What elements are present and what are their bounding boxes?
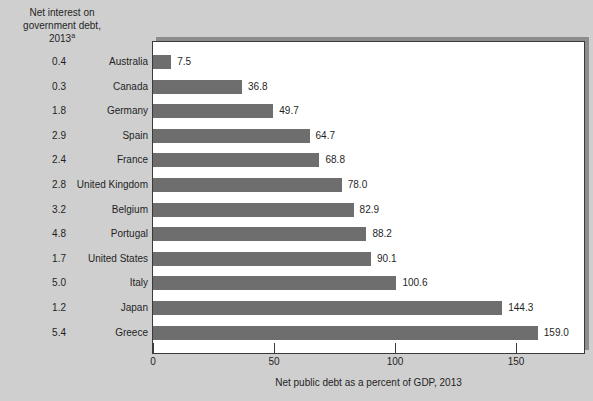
country-label: Germany <box>60 104 148 118</box>
country-label: Spain <box>60 129 148 143</box>
bar <box>153 326 538 340</box>
country-label: Japan <box>60 301 148 315</box>
chart-rows: 0.4Australia7.50.3Canada36.81.8Germany49… <box>0 51 593 346</box>
net-interest-value: 0.4 <box>14 55 66 69</box>
bar <box>153 252 371 266</box>
country-label: Portugal <box>60 227 148 241</box>
bar-value-label: 68.8 <box>325 153 344 167</box>
bar <box>153 276 396 290</box>
net-interest-value: 4.8 <box>14 227 66 241</box>
bar-value-label: 82.9 <box>360 203 379 217</box>
bar-track: 64.7 <box>153 129 593 143</box>
bar-value-label: 78.0 <box>348 178 367 192</box>
x-axis-tick-label: 0 <box>150 356 156 368</box>
net-interest-value: 1.2 <box>14 301 66 315</box>
chart-row: 3.2Belgium82.9 <box>0 199 593 224</box>
country-label: United Kingdom <box>60 178 148 192</box>
chart-row: 1.2Japan144.3 <box>0 297 593 322</box>
bar-value-label: 64.7 <box>316 129 335 143</box>
left-column-header-year: 2013 <box>49 33 71 44</box>
country-label: Belgium <box>60 203 148 217</box>
net-interest-value: 5.0 <box>14 276 66 290</box>
bar-value-label: 144.3 <box>508 301 533 315</box>
bar-track: 100.6 <box>153 276 593 290</box>
chart-row: 2.4France68.8 <box>0 149 593 174</box>
country-label: France <box>60 153 148 167</box>
bar <box>153 129 310 143</box>
bar <box>153 178 342 192</box>
net-interest-value: 2.9 <box>14 129 66 143</box>
chart-row: 0.3Canada36.8 <box>0 76 593 101</box>
bar-value-label: 90.1 <box>377 252 396 266</box>
bar-value-label: 36.8 <box>248 80 267 94</box>
left-column-header-line1: Net interest on <box>0 6 124 19</box>
bar-track: 90.1 <box>153 252 593 266</box>
bar-track: 36.8 <box>153 80 593 94</box>
country-label: Italy <box>60 276 148 290</box>
bar-track: 78.0 <box>153 178 593 192</box>
bar-value-label: 49.7 <box>279 104 298 118</box>
bar <box>153 80 242 94</box>
x-axis-title: Net public debt as a percent of GDP, 201… <box>152 376 585 389</box>
chart-row: 5.0Italy100.6 <box>0 272 593 297</box>
bar-track: 82.9 <box>153 203 593 217</box>
net-interest-value: 1.8 <box>14 104 66 118</box>
x-axis-tick-label: 50 <box>268 356 279 368</box>
chart-row: 1.7United States90.1 <box>0 248 593 273</box>
footnote-marker: a <box>71 32 75 39</box>
bar <box>153 227 366 241</box>
bar-track: 88.2 <box>153 227 593 241</box>
net-interest-value: 1.7 <box>14 252 66 266</box>
net-interest-value: 2.8 <box>14 178 66 192</box>
bar <box>153 153 319 167</box>
chart-row: 5.4Greece159.0 <box>0 322 593 347</box>
bar-value-label: 88.2 <box>372 227 391 241</box>
left-column-header: Net interest on government debt, 2013a <box>0 6 124 45</box>
chart-root: Net interest on government debt, 2013a 0… <box>0 0 593 401</box>
chart-row: 0.4Australia7.5 <box>0 51 593 76</box>
country-label: United States <box>60 252 148 266</box>
bar-track: 68.8 <box>153 153 593 167</box>
net-interest-value: 2.4 <box>14 153 66 167</box>
bar-track: 159.0 <box>153 326 593 340</box>
net-interest-value: 5.4 <box>14 326 66 340</box>
bar-value-label: 100.6 <box>402 276 427 290</box>
bar <box>153 55 171 69</box>
bar <box>153 104 273 118</box>
chart-row: 1.8Germany49.7 <box>0 100 593 125</box>
chart-row: 4.8Portugal88.2 <box>0 223 593 248</box>
country-label: Greece <box>60 326 148 340</box>
country-label: Canada <box>60 80 148 94</box>
bar <box>153 301 502 315</box>
bar-track: 49.7 <box>153 104 593 118</box>
bar-track: 144.3 <box>153 301 593 315</box>
net-interest-value: 0.3 <box>14 80 66 94</box>
chart-row: 2.9Spain64.7 <box>0 125 593 150</box>
country-label: Australia <box>60 55 148 69</box>
x-axis-tick-label: 150 <box>508 356 525 368</box>
x-axis-tick-label: 100 <box>387 356 404 368</box>
left-column-header-line2: government debt, <box>0 19 124 32</box>
bar-value-label: 7.5 <box>177 55 191 69</box>
bar-track: 7.5 <box>153 55 593 69</box>
bar <box>153 203 354 217</box>
net-interest-value: 3.2 <box>14 203 66 217</box>
bar-value-label: 159.0 <box>544 326 569 340</box>
left-column-header-line3: 2013a <box>0 32 124 45</box>
chart-row: 2.8United Kingdom78.0 <box>0 174 593 199</box>
